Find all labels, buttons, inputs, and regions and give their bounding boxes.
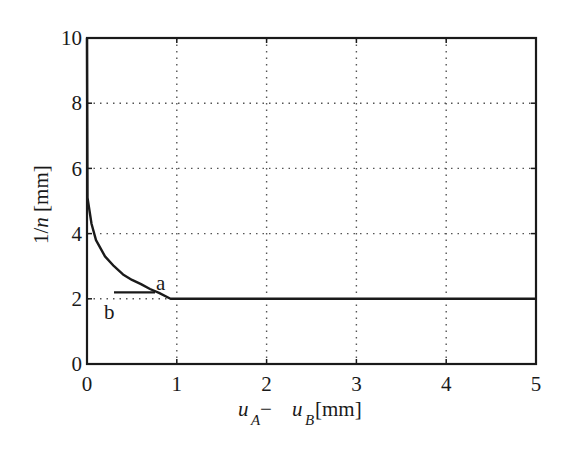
svg-text:B: B bbox=[305, 412, 314, 428]
data-curve bbox=[87, 38, 536, 299]
svg-text:2: 2 bbox=[261, 372, 272, 396]
chart: a b 0 2 4 6 8 10 0 1 2 3 4 5 u A − u B [… bbox=[0, 0, 569, 452]
plot-frame bbox=[87, 38, 536, 364]
svg-text:10: 10 bbox=[61, 26, 82, 50]
svg-text:0: 0 bbox=[82, 372, 93, 396]
svg-text:5: 5 bbox=[531, 372, 542, 396]
y-tick-labels: 0 2 4 6 8 10 bbox=[61, 26, 83, 376]
svg-text:u: u bbox=[238, 397, 249, 421]
svg-text:4: 4 bbox=[72, 222, 83, 246]
svg-text:2: 2 bbox=[72, 287, 83, 311]
x-tick-labels: 0 1 2 3 4 5 bbox=[82, 372, 542, 396]
svg-text:4: 4 bbox=[441, 372, 452, 396]
svg-text:−: − bbox=[260, 397, 272, 421]
svg-text:6: 6 bbox=[72, 157, 83, 181]
y-axis-label: 1/n [mm] bbox=[29, 165, 53, 244]
svg-text:[mm]: [mm] bbox=[315, 397, 362, 421]
svg-text:u: u bbox=[292, 397, 303, 421]
annotation-a: a bbox=[156, 271, 166, 295]
annotation-b: b bbox=[104, 300, 115, 324]
axis-ticks bbox=[87, 38, 536, 364]
x-axis-label: u A − u B [mm] bbox=[238, 397, 362, 428]
svg-text:8: 8 bbox=[72, 91, 83, 115]
grid bbox=[87, 38, 536, 364]
svg-text:0: 0 bbox=[72, 352, 83, 376]
svg-text:1: 1 bbox=[172, 372, 183, 396]
svg-text:1/n [mm]: 1/n [mm] bbox=[29, 165, 53, 244]
svg-text:3: 3 bbox=[351, 372, 362, 396]
